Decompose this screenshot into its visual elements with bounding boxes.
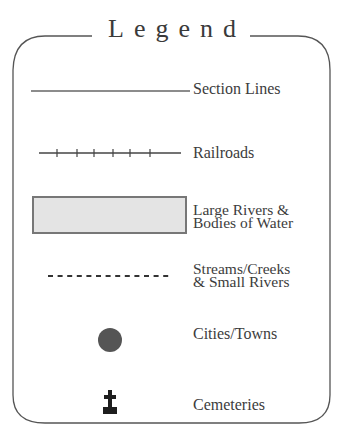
cemetery-cross-icon (0, 0, 343, 448)
legend-label-cemeteries: Cemeteries (193, 396, 265, 414)
